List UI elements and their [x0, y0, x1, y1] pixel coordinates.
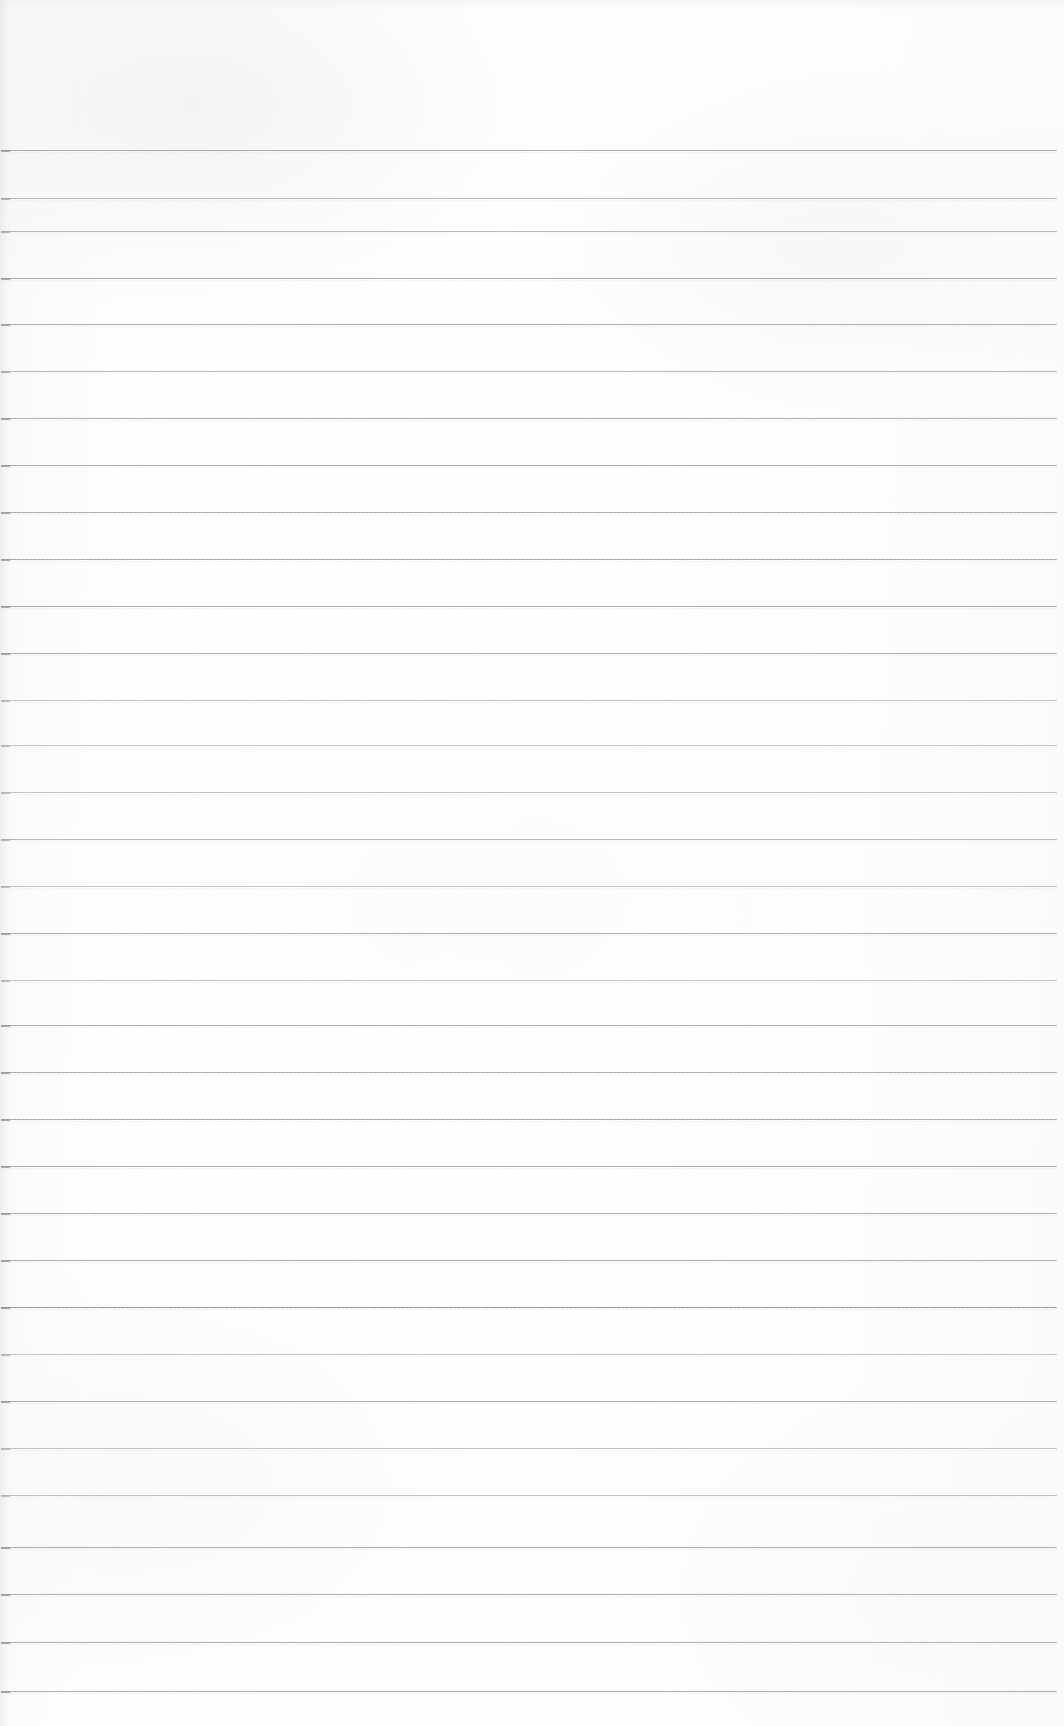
ruled-line	[1, 1213, 1057, 1214]
ruled-line	[1, 1260, 1057, 1261]
ruled-line	[1, 1119, 1057, 1120]
ruled-line	[1, 559, 1057, 560]
ruled-line	[1, 1072, 1057, 1073]
ruled-line	[1, 606, 1057, 607]
ruled-line	[1, 1594, 1057, 1595]
ruled-line	[1, 886, 1057, 887]
scanned-page	[0, 0, 1064, 1726]
ruled-line	[1, 465, 1057, 466]
ruled-line	[1, 653, 1057, 654]
ruled-line	[1, 1495, 1057, 1496]
ruled-line	[1, 198, 1057, 199]
ruled-line	[1, 792, 1057, 793]
ruled-line	[1, 839, 1057, 840]
ruled-line	[1, 745, 1057, 746]
ruled-line	[1, 933, 1057, 934]
ruled-line	[1, 1307, 1057, 1308]
ruled-line	[1, 1691, 1057, 1692]
ruled-line	[1, 512, 1057, 513]
ruled-line	[1, 1354, 1057, 1355]
ruled-line	[1, 150, 1057, 151]
ruled-line	[1, 278, 1057, 279]
ruled-line	[1, 1401, 1057, 1402]
ruled-line	[1, 1025, 1057, 1026]
ruled-line	[1, 1547, 1057, 1548]
ruled-line	[1, 324, 1057, 325]
ruled-line	[1, 418, 1057, 419]
ruled-line	[1, 1448, 1057, 1449]
ruled-line	[1, 371, 1057, 372]
ruled-line	[1, 1642, 1057, 1643]
ruled-lines-layer	[0, 0, 1064, 1726]
ruled-line	[1, 231, 1057, 232]
ruled-line	[1, 1166, 1057, 1167]
ruled-line	[1, 980, 1057, 981]
ruled-line	[1, 700, 1057, 701]
